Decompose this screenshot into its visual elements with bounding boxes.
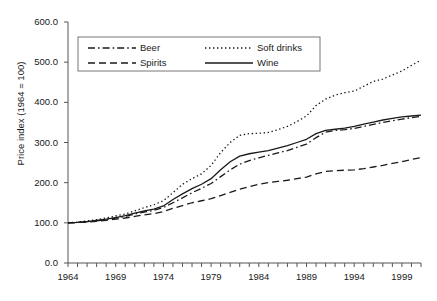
legend-label-spirits: Spirits [140,57,166,68]
y-axis-ticks [64,22,68,263]
x-tick-label: 1994 [334,271,374,282]
series-line-soft-drinks [68,60,421,223]
chart-plot-area [0,0,437,301]
y-tick-label: 400.0 [18,96,58,107]
series-line-wine [68,115,421,223]
y-tick-label: 200.0 [18,177,58,188]
x-tick-label: 1979 [191,271,231,282]
y-tick-label: 100.0 [18,217,58,228]
legend-label-wine: Wine [257,57,279,68]
x-tick-label: 1999 [382,271,422,282]
y-tick-label: 0.0 [18,257,58,268]
series-line-spirits [68,158,421,223]
series-lines [68,60,421,223]
legend-label-soft-drinks: Soft drinks [257,42,302,53]
x-tick-label: 1984 [239,271,279,282]
y-tick-label: 300.0 [18,137,58,148]
x-tick-label: 1964 [48,271,88,282]
x-tick-label: 1989 [287,271,327,282]
legend-label-beer: Beer [140,42,160,53]
x-axis-ticks [68,263,421,267]
x-tick-label: 1974 [143,271,183,282]
series-line-beer [68,116,421,222]
x-tick-label: 1969 [96,271,136,282]
price-index-line-chart: Price index (1964 = 100) 0.0100.0200.030… [0,0,437,301]
y-tick-label: 600.0 [18,16,58,27]
y-tick-label: 500.0 [18,56,58,67]
